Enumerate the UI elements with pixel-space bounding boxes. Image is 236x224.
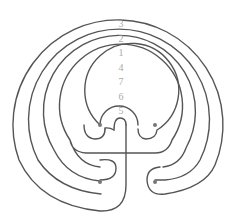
- labyrinth-wall-center-left: [105, 128, 114, 130]
- circuit-label: 6: [119, 91, 124, 102]
- circuit-label: 4: [119, 62, 124, 73]
- labyrinth-wall-2: [100, 160, 116, 180]
- labyrinth-wall-center: [114, 118, 126, 130]
- circuit-label: 7: [119, 76, 124, 87]
- labyrinth-wall-5-left: [84, 125, 105, 139]
- labyrinth-diagram: 3 2 1 4 7 6 5: [0, 0, 236, 224]
- wall-end-dot: [98, 123, 102, 127]
- circuit-label: 2: [119, 33, 124, 44]
- wall-end-dot: [153, 123, 157, 127]
- circuit-label: 5: [119, 105, 124, 116]
- wall-end-dot: [98, 180, 102, 184]
- circuit-label: 1: [119, 47, 124, 58]
- circuit-label: 3: [119, 18, 124, 29]
- wall-end-dot: [153, 180, 157, 184]
